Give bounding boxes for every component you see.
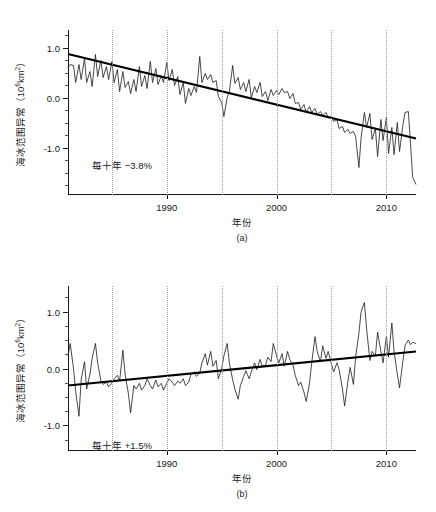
gridline-2005 <box>331 286 332 451</box>
anomaly-series-line <box>68 303 416 417</box>
gridline-1985 <box>112 286 113 451</box>
gridline-2010 <box>386 286 387 451</box>
y-tick-label-0.0: 0.0 <box>47 92 60 103</box>
y-tick-0.0 <box>63 98 68 99</box>
gridline-2000 <box>277 30 278 195</box>
x-tick-2010 <box>386 195 387 199</box>
y-tick-minor <box>65 60 68 61</box>
y-tick-label--1.0: -1.0 <box>44 142 60 153</box>
sea-ice-anomaly-figure: 海冰范围异常（106km2） 1.00.0-1.0199020002010 每十… <box>0 0 436 512</box>
x-tick-label-2000: 2000 <box>266 458 287 469</box>
gridline-2000 <box>277 286 278 451</box>
y-tick-minor <box>65 383 68 384</box>
y-tick-minor <box>65 160 68 161</box>
panel-b: 海冰范围异常（106km2） 1.00.0-1.0199020002010 每十… <box>0 256 436 512</box>
y-tick-0.0 <box>63 369 68 370</box>
y-tick-label--1.0: -1.0 <box>44 420 60 431</box>
y-tick-1.0 <box>63 48 68 49</box>
y-tick--1.0 <box>63 425 68 426</box>
y-tick-minor <box>65 35 68 36</box>
x-tick-2000 <box>277 195 278 199</box>
panel-a-y-axis-label: 海冰范围异常（106km2） <box>13 57 27 168</box>
y-tick-minor <box>65 440 68 441</box>
panel-b-data-curve <box>68 286 416 451</box>
gridline-2005 <box>331 30 332 195</box>
y-tick-minor <box>65 110 68 111</box>
y-tick-minor <box>65 297 68 298</box>
y-tick-minor <box>65 354 68 355</box>
y-tick-minor <box>65 123 68 124</box>
panel-b-x-axis-label: 年份 <box>232 471 252 485</box>
x-tick-label-2000: 2000 <box>266 202 287 213</box>
x-tick-1990 <box>167 195 168 199</box>
x-tick-label-2010: 2010 <box>376 458 397 469</box>
y-tick-label-1.0: 1.0 <box>47 42 60 53</box>
y-tick-minor <box>65 411 68 412</box>
x-tick-2000 <box>277 451 278 455</box>
gridline-1990 <box>167 286 168 451</box>
panel-a-x-axis-label: 年份 <box>232 215 252 229</box>
y-tick--1.0 <box>63 148 68 149</box>
y-tick-label-0.0: 0.0 <box>47 363 60 374</box>
panel-b-plot-area: 1.00.0-1.0199020002010 <box>68 286 416 451</box>
gridline-2010 <box>386 30 387 195</box>
gridline-1995 <box>222 286 223 451</box>
y-tick-minor <box>65 173 68 174</box>
panel-b-caption: (b) <box>237 489 248 499</box>
y-tick-1.0 <box>63 312 68 313</box>
panel-b-plot: 1.00.0-1.0199020002010 每十年 +1.5% <box>68 286 416 451</box>
panel-a-trend-annotation: 每十年 −3.8% <box>92 158 152 172</box>
panel-b-trend-annotation: 每十年 +1.5% <box>92 438 152 452</box>
panel-a-caption: (a) <box>237 233 248 243</box>
y-tick-minor <box>65 340 68 341</box>
panel-a-plot: 1.00.0-1.0199020002010 每十年 −3.8% <box>68 30 416 195</box>
y-tick-minor <box>65 397 68 398</box>
x-tick-label-1990: 1990 <box>156 458 177 469</box>
trend-line <box>68 54 416 139</box>
y-tick-label-1.0: 1.0 <box>47 306 60 317</box>
panel-a: 海冰范围异常（106km2） 1.00.0-1.0199020002010 每十… <box>0 0 436 256</box>
x-tick-label-2010: 2010 <box>376 202 397 213</box>
gridline-1990 <box>167 30 168 195</box>
x-tick-label-1990: 1990 <box>156 202 177 213</box>
y-tick-minor <box>65 85 68 86</box>
x-tick-1990 <box>167 451 168 455</box>
y-tick-minor <box>65 73 68 74</box>
panel-b-y-axis-label: 海冰范围异常（106km2） <box>13 313 27 424</box>
y-tick-minor <box>65 185 68 186</box>
x-tick-2010 <box>386 451 387 455</box>
y-tick-minor <box>65 326 68 327</box>
gridline-1995 <box>222 30 223 195</box>
y-tick-minor <box>65 135 68 136</box>
